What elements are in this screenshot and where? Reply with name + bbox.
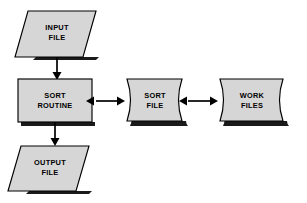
output-file-label-line2: FILE bbox=[41, 168, 58, 177]
sort-routine-shadow bbox=[21, 122, 95, 126]
node-output-file[interactable]: OUTPUT FILE bbox=[8, 146, 92, 194]
node-work-files[interactable]: WORK FILES bbox=[220, 79, 289, 126]
node-input-file[interactable]: INPUT FILE bbox=[15, 11, 99, 60]
connector-sort-routine-to-sort-file bbox=[86, 97, 125, 106]
flowchart-diagram: INPUT FILE SORT ROUTINE OUTPUT FILE bbox=[0, 0, 307, 203]
sort-routine-label-line2: ROUTINE bbox=[37, 101, 72, 110]
connector-input-to-sort-routine bbox=[53, 57, 62, 80]
sort-file-label-line1: SORT bbox=[144, 91, 166, 100]
sort-routine-label-line1: SORT bbox=[44, 91, 66, 100]
connector-sort-file-to-work-files-arrowhead-left bbox=[179, 97, 187, 106]
sort-file-shadow bbox=[130, 121, 188, 126]
node-sort-routine[interactable]: SORT ROUTINE bbox=[18, 79, 95, 126]
node-sort-file[interactable]: SORT FILE bbox=[127, 79, 188, 126]
flowchart-canvas: INPUT FILE SORT ROUTINE OUTPUT FILE bbox=[0, 0, 307, 203]
output-file-label-line1: OUTPUT bbox=[34, 158, 66, 167]
connector-sort-routine-to-output-arrowhead bbox=[51, 138, 60, 146]
connector-sort-routine-to-sort-file-arrowhead-right bbox=[117, 97, 125, 106]
work-files-label-line2: FILES bbox=[241, 101, 263, 110]
work-files-label-line1: WORK bbox=[240, 91, 265, 100]
connector-sort-file-to-work-files bbox=[179, 97, 218, 106]
input-file-label-line2: FILE bbox=[48, 33, 65, 42]
sort-file-label-line2: FILE bbox=[146, 101, 163, 110]
connector-sort-file-to-work-files-arrowhead-right bbox=[210, 97, 218, 106]
input-file-label-line1: INPUT bbox=[45, 23, 69, 32]
work-files-shadow bbox=[223, 121, 289, 126]
